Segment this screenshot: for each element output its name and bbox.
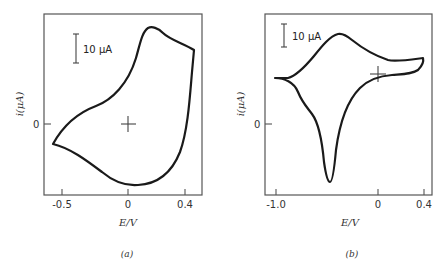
figure-canvas: 0 -0.5 0 0.4 E/V i(μA) 10 μA (a) 0 (0, 0, 447, 271)
panel-a-origin-marker (121, 116, 136, 132)
panel-b-cv-curve (275, 34, 423, 182)
panel-b-label: (b) (346, 249, 359, 259)
panel-b-y-axis-label: i(μA) (235, 92, 246, 117)
panel-b-y-tick-label-0: 0 (254, 119, 260, 130)
panel-a-y-tick-label-0: 0 (33, 119, 39, 130)
panel-a-y-axis-label: i(μA) (14, 92, 25, 117)
panel-b-scale-bar-label: 10 μA (292, 31, 321, 42)
panel-b-x-tick-label-0: 0 (375, 199, 381, 210)
panel-a-x-tick-label-0: 0 (125, 199, 131, 210)
panel-a-x-tick-label-neg0.5: -0.5 (52, 199, 72, 210)
panel-a: 0 -0.5 0 0.4 E/V i(μA) 10 μA (a) (14, 14, 202, 259)
panel-b-x-tick-label-neg1.0: -1.0 (266, 199, 286, 210)
panel-b-x-tick-label-0.4: 0.4 (416, 199, 432, 210)
panel-b-x-axis-label: E/V (340, 217, 361, 228)
panel-a-cv-curve (53, 27, 194, 185)
panel-a-scale-bar (73, 34, 79, 63)
panel-a-label: (a) (121, 249, 134, 259)
panel-a-x-tick-label-0.4: 0.4 (177, 199, 193, 210)
panel-b: 0 -1.0 0 0.4 E/V i(μA) 10 μA (b) (235, 14, 432, 259)
panel-a-scale-bar-label: 10 μA (83, 44, 112, 55)
panel-b-scale-bar (281, 24, 287, 47)
panel-a-x-axis-label: E/V (118, 217, 139, 228)
